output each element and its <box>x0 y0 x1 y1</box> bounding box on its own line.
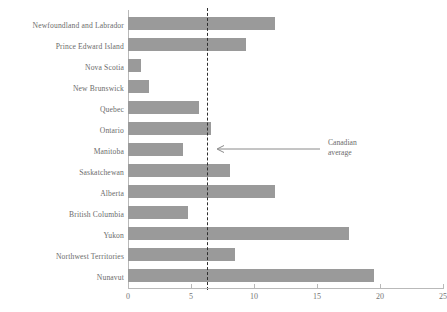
bar-alberta <box>128 185 275 198</box>
bar-chart: Newfoundland and Labrador Prince Edward … <box>0 0 447 312</box>
category-label: Alberta <box>2 189 124 198</box>
x-axis-tick <box>191 284 192 289</box>
x-axis-tick-label: 10 <box>250 292 258 302</box>
bar-quebec <box>128 101 199 114</box>
x-axis-tick-label: 15 <box>313 292 321 302</box>
bar-nova-scotia <box>128 59 141 72</box>
x-axis-tick-label: 20 <box>376 292 384 302</box>
category-label: Yukon <box>2 231 124 240</box>
bar-british-columbia <box>128 206 188 219</box>
bar-newfoundland-and-labrador <box>128 17 275 30</box>
category-label: Newfoundland and Labrador <box>2 21 124 30</box>
bar-northwest-territories <box>128 248 235 261</box>
x-axis-line <box>128 288 443 289</box>
category-label: British Columbia <box>2 210 124 219</box>
category-label: New Brunswick <box>2 84 124 93</box>
x-axis-tick-label: 0 <box>126 292 130 302</box>
category-label: Nunavut <box>2 273 124 282</box>
category-label: Saskatchewan <box>2 168 124 177</box>
canadian-average-annotation-line2: average <box>328 148 352 158</box>
bar-yukon <box>128 227 349 240</box>
bar-nunavut <box>128 269 374 282</box>
canadian-average-annotation-line1: Canadian <box>328 138 357 148</box>
x-axis-tick-label: 5 <box>189 292 193 302</box>
plot-area: Canadian average 0 5 10 15 20 25 <box>128 0 447 312</box>
bar-manitoba <box>128 143 183 156</box>
x-axis-tick <box>317 284 318 289</box>
category-label: Quebec <box>2 105 124 114</box>
category-label: Manitoba <box>2 147 124 156</box>
category-label: Nova Scotia <box>2 63 124 72</box>
x-axis-tick-label: 25 <box>439 292 447 302</box>
annotation-arrow-icon <box>208 143 328 155</box>
bar-ontario <box>128 122 211 135</box>
category-axis-labels: Newfoundland and Labrador Prince Edward … <box>0 0 124 312</box>
bar-saskatchewan <box>128 164 230 177</box>
category-label: Ontario <box>2 126 124 135</box>
x-axis-tick <box>443 284 444 289</box>
bar-prince-edward-island <box>128 38 246 51</box>
bar-new-brunswick <box>128 80 149 93</box>
x-axis-tick <box>380 284 381 289</box>
x-axis-tick <box>128 284 129 289</box>
category-label: Northwest Territories <box>2 252 124 261</box>
category-label: Prince Edward Island <box>2 42 124 51</box>
x-axis-tick <box>254 284 255 289</box>
